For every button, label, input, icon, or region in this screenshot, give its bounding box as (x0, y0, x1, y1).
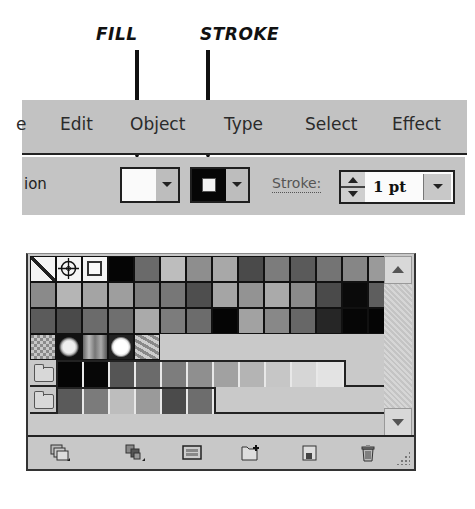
swatch[interactable] (292, 362, 318, 387)
menu-object[interactable]: Object (130, 114, 185, 134)
stroke-weight-field[interactable]: 1 pt (365, 170, 455, 204)
swatch[interactable] (266, 362, 292, 387)
fill-swatch (122, 169, 156, 201)
swatch-options-icon[interactable] (182, 444, 202, 462)
swatch-grid (30, 256, 394, 414)
stroke-weight-value[interactable]: 1 pt (373, 178, 406, 196)
folder-icon[interactable] (30, 360, 56, 386)
swatch[interactable] (108, 308, 134, 334)
menu-edit[interactable]: Edit (60, 114, 93, 134)
swatch[interactable] (186, 256, 212, 282)
swatch[interactable] (110, 362, 136, 387)
swatch[interactable] (342, 256, 368, 282)
gradient-checker-swatch[interactable] (30, 334, 56, 360)
menu-file[interactable]: e (16, 114, 26, 134)
scroll-down-button[interactable] (384, 408, 412, 436)
swatch[interactable] (160, 282, 186, 308)
swatch[interactable] (188, 389, 214, 414)
menu-effect[interactable]: Effect (392, 114, 441, 134)
swatch[interactable] (108, 282, 134, 308)
swatch[interactable] (290, 308, 316, 334)
show-swatch-kinds-menu-icon[interactable] (125, 444, 145, 462)
swatch[interactable] (188, 362, 214, 387)
swatch[interactable] (264, 308, 290, 334)
swatch[interactable] (264, 282, 290, 308)
swatch[interactable] (84, 389, 110, 414)
swatch[interactable] (84, 362, 110, 387)
swatch[interactable] (134, 308, 160, 334)
swatch[interactable] (316, 308, 342, 334)
folder-icon[interactable] (30, 387, 56, 413)
menu-type[interactable]: Type (224, 114, 263, 134)
swatch[interactable] (342, 282, 368, 308)
stroke-weight-stepper[interactable] (339, 170, 367, 204)
swatch[interactable] (318, 362, 344, 387)
swatch[interactable] (316, 256, 342, 282)
linear-bars-swatch[interactable] (82, 334, 108, 360)
swatch-row (30, 282, 394, 308)
swatch[interactable] (316, 282, 342, 308)
swatch[interactable] (290, 282, 316, 308)
swatch-row (30, 256, 394, 282)
color-group-2 (30, 387, 394, 414)
none-swatch[interactable] (30, 256, 56, 282)
stroke-panel-link[interactable]: Stroke: (272, 175, 321, 193)
swatch[interactable] (110, 389, 136, 414)
swatch[interactable] (134, 282, 160, 308)
swatch[interactable] (56, 282, 82, 308)
color-group-1 (30, 360, 394, 387)
swatch[interactable] (342, 308, 368, 334)
swatch[interactable] (214, 362, 240, 387)
new-color-group-icon[interactable] (241, 444, 261, 462)
swatch[interactable] (186, 282, 212, 308)
menu-select[interactable]: Select (305, 114, 357, 134)
swatch[interactable] (162, 362, 188, 387)
swatch[interactable] (58, 389, 84, 414)
radial-white-swatch[interactable] (108, 334, 134, 360)
swatch[interactable] (30, 282, 56, 308)
stroke-weight-dropdown-button[interactable] (423, 174, 451, 200)
swatch[interactable] (264, 256, 290, 282)
swatch[interactable] (134, 256, 160, 282)
swatch[interactable] (108, 256, 134, 282)
swatch[interactable] (212, 256, 238, 282)
arrow-up-icon[interactable] (348, 177, 358, 183)
registration-swatch[interactable] (56, 256, 82, 282)
vertical-scrollbar[interactable] (384, 256, 412, 436)
color-group-1-swatches (56, 360, 346, 385)
arrow-down-icon[interactable] (348, 191, 358, 197)
swatch[interactable] (212, 282, 238, 308)
swatch[interactable] (56, 308, 82, 334)
swatch[interactable] (238, 256, 264, 282)
swatch[interactable] (58, 362, 84, 387)
swatch[interactable] (186, 308, 212, 334)
swatch[interactable] (160, 308, 186, 334)
control-bar: ion Stroke: 1 pt (22, 157, 465, 215)
stroke-color-dropdown[interactable] (190, 167, 250, 203)
wave-pattern-swatch[interactable] (134, 334, 160, 360)
swatch[interactable] (160, 256, 186, 282)
radial-glow-swatch[interactable] (56, 334, 82, 360)
swatch[interactable] (238, 282, 264, 308)
new-swatch-icon[interactable] (300, 444, 320, 462)
swatch[interactable] (82, 308, 108, 334)
stroke-annotation: STROKE (200, 24, 279, 44)
white-swatch[interactable] (82, 256, 108, 282)
scroll-up-button[interactable] (384, 256, 412, 284)
swatch[interactable] (82, 282, 108, 308)
swatch[interactable] (136, 389, 162, 414)
swatch[interactable] (30, 308, 56, 334)
stepper-divider (341, 186, 365, 188)
swatch[interactable] (290, 256, 316, 282)
delete-swatch-icon[interactable] (358, 444, 378, 462)
swatch[interactable] (212, 308, 238, 334)
swatch[interactable] (238, 308, 264, 334)
menu-bar: e Edit Object Type Select Effect (22, 100, 467, 155)
swatch[interactable] (162, 389, 188, 414)
chevron-down-icon (232, 182, 242, 187)
resize-grip[interactable] (396, 451, 410, 465)
swatch-libraries-menu-icon[interactable] (50, 444, 70, 462)
fill-color-dropdown[interactable] (120, 167, 180, 203)
swatch[interactable] (136, 362, 162, 387)
swatch[interactable] (240, 362, 266, 387)
